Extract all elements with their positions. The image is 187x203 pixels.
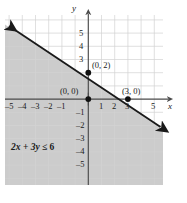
inequality-operator: + xyxy=(21,142,31,152)
x-tick-neg3: –3 xyxy=(31,102,40,111)
y-tick-neg3: –3 xyxy=(76,134,85,143)
y-tick-neg2: –2 xyxy=(76,121,85,130)
inequality-term-b: 3y xyxy=(31,142,40,152)
x-tick-neg5: –5 xyxy=(5,102,14,111)
y-tick-4: 4 xyxy=(79,42,83,51)
point-0-2-marker xyxy=(85,70,91,76)
x-axis-label: x xyxy=(168,102,172,111)
y-tick-3: 3 xyxy=(79,55,83,64)
point-0-2-label: (0, 2) xyxy=(92,61,110,70)
inequality-term-a: 2x xyxy=(11,142,21,152)
y-tick-neg4: –4 xyxy=(76,147,85,156)
point-3-0-label: (3, 0) xyxy=(122,87,140,96)
coordinate-plane-svg xyxy=(0,0,187,203)
x-tick-neg4: –4 xyxy=(18,102,27,111)
inequality-relation: ≤ 6 xyxy=(40,142,55,152)
y-tick-neg1: –1 xyxy=(76,108,85,117)
x-tick-3: 3 xyxy=(125,102,129,111)
x-tick-1: 1 xyxy=(99,102,103,111)
x-tick-5: 5 xyxy=(151,102,155,111)
inequality-annotation: 2x + 3y ≤ 6 xyxy=(11,143,54,153)
x-tick-neg2: –2 xyxy=(44,102,53,111)
point-0-0-label: (0, 0) xyxy=(60,87,78,96)
x-tick-neg1: –1 xyxy=(57,102,66,111)
x-tick-2: 2 xyxy=(112,102,116,111)
y-tick-neg5: –5 xyxy=(76,160,85,169)
point-0-0-marker xyxy=(85,96,91,102)
inequality-graph-figure: y x –5 –4 –3 –2 –1 1 2 3 5 5 4 3 –1 –2 –… xyxy=(0,0,187,203)
y-axis-label: y xyxy=(72,4,76,13)
y-tick-5: 5 xyxy=(79,29,83,38)
